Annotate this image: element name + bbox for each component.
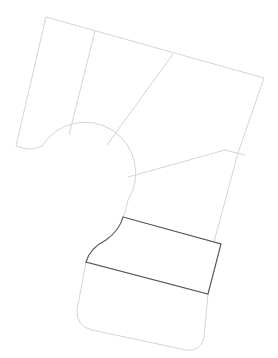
floor-plan-diagram bbox=[0, 0, 278, 358]
divider-3 bbox=[128, 150, 245, 177]
divider-2 bbox=[107, 54, 173, 145]
divider-1 bbox=[69, 31, 95, 135]
highlighted-region[interactable] bbox=[86, 217, 221, 294]
outer-outline bbox=[16, 17, 264, 350]
